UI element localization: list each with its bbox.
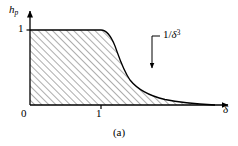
y-tick-label-1: 1	[18, 23, 24, 34]
plot-canvas	[0, 0, 238, 146]
annotation-exponent: 3	[177, 29, 181, 37]
figure-caption: (a)	[0, 127, 238, 138]
x-axis-label: δ	[223, 104, 228, 115]
x-tick-label-1: 1	[96, 108, 102, 119]
decay-law-annotation: 1/δ3	[163, 29, 180, 40]
figure-container: hp δ 1 0 1 1/δ3 (a)	[0, 0, 238, 146]
x-tick-label-0: 0	[21, 108, 27, 119]
annotation-prefix: 1/	[163, 28, 172, 40]
y-axis-label: hp	[9, 4, 18, 16]
hatched-region	[30, 30, 215, 105]
annotation-leader-line	[152, 36, 160, 68]
y-axis-label-subscript: p	[15, 8, 19, 17]
